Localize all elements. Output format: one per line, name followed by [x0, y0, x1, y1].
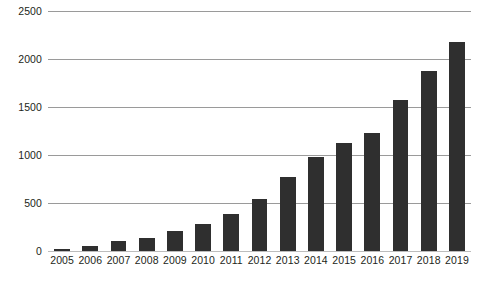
x-tick-label-2013: 2013 — [274, 255, 302, 266]
x-tick-label-2006: 2006 — [76, 255, 104, 266]
bars-layer — [48, 11, 471, 251]
x-tick-label-2005: 2005 — [48, 255, 76, 266]
y-tick-label-0: 0 — [0, 246, 42, 257]
x-tick-label-2017: 2017 — [386, 255, 414, 266]
bar-2012[interactable] — [252, 199, 268, 251]
x-tick-label-2012: 2012 — [245, 255, 273, 266]
bar-chart: 2500 2000 1500 1000 500 0 2005 2006 2007… — [0, 0, 484, 282]
x-tick-label-2018: 2018 — [415, 255, 443, 266]
y-tick-label-1500: 1500 — [0, 102, 42, 113]
x-tick-label-2019: 2019 — [443, 255, 471, 266]
bar-2006[interactable] — [82, 246, 98, 251]
x-tick-label-2007: 2007 — [104, 255, 132, 266]
bar-2018[interactable] — [421, 71, 437, 251]
bar-2008[interactable] — [139, 238, 155, 251]
gridline-0-baseline — [48, 251, 471, 252]
x-tick-label-2008: 2008 — [133, 255, 161, 266]
bar-2019[interactable] — [449, 42, 465, 251]
bar-2009[interactable] — [167, 231, 183, 251]
x-tick-label-2010: 2010 — [189, 255, 217, 266]
bar-slot — [245, 11, 273, 251]
x-tick-label-2011: 2011 — [217, 255, 245, 266]
bar-2017[interactable] — [393, 100, 409, 251]
y-tick-label-1000: 1000 — [0, 150, 42, 161]
y-tick-label-500: 500 — [0, 198, 42, 209]
bar-slot — [415, 11, 443, 251]
bar-2007[interactable] — [111, 241, 127, 251]
bar-slot — [274, 11, 302, 251]
bar-slot — [161, 11, 189, 251]
bar-2014[interactable] — [308, 157, 324, 251]
y-tick-label-2500: 2500 — [0, 6, 42, 17]
bar-slot — [443, 11, 471, 251]
bar-slot — [189, 11, 217, 251]
x-axis-tick-labels: 2005 2006 2007 2008 2009 2010 2011 2012 … — [48, 255, 471, 266]
bar-slot — [48, 11, 76, 251]
bar-2010[interactable] — [195, 224, 211, 251]
x-tick-label-2016: 2016 — [358, 255, 386, 266]
bar-slot — [302, 11, 330, 251]
bar-2016[interactable] — [364, 133, 380, 251]
bar-2013[interactable] — [280, 177, 296, 251]
bar-slot — [386, 11, 414, 251]
x-tick-label-2014: 2014 — [302, 255, 330, 266]
bar-slot — [330, 11, 358, 251]
x-tick-label-2015: 2015 — [330, 255, 358, 266]
y-tick-label-2000: 2000 — [0, 54, 42, 65]
bar-slot — [104, 11, 132, 251]
bar-2011[interactable] — [223, 214, 239, 251]
x-tick-label-2009: 2009 — [161, 255, 189, 266]
bar-2015[interactable] — [336, 143, 352, 251]
bar-2005[interactable] — [54, 249, 70, 251]
bar-slot — [217, 11, 245, 251]
bar-slot — [133, 11, 161, 251]
bar-slot — [358, 11, 386, 251]
bar-slot — [76, 11, 104, 251]
